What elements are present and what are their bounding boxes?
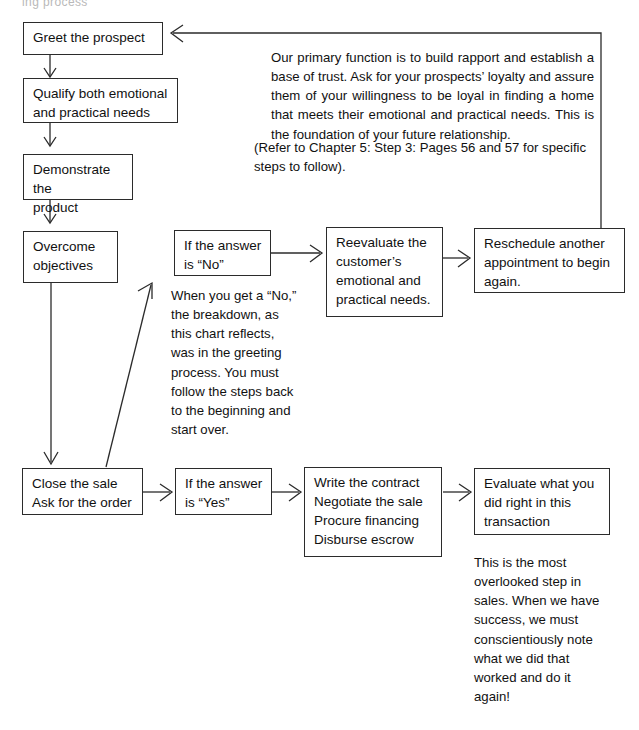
node-if-answer-no[interactable]: If the answer is “No” [174,230,271,276]
arrow-close-to-no-branch [106,283,152,467]
node-reevaluate-needs[interactable]: Reevaluate the customer’s emotional and … [326,227,443,317]
arrow-qualify-to-demonstrate [44,122,56,146]
arrow-greet-to-qualify [44,55,56,77]
node-close-the-sale[interactable]: Close the sale Ask for the order [22,468,143,515]
note-overlooked-step: This is the most overlooked step in sale… [474,553,624,706]
node-demonstrate-product[interactable]: Demonstrate the product [23,154,133,200]
top-text-fragment: ing process [22,0,88,9]
node-evaluate-transaction[interactable]: Evaluate what you did right in this tran… [474,468,610,535]
arrow-overcome-to-close [44,283,58,464]
node-write-the-contract[interactable]: Write the contract Negotiate the sale Pr… [304,467,442,557]
note-chapter-reference: (Refer to Chapter 5: Step 3: Pages 56 an… [254,138,590,176]
note-rapport-paragraph: Our primary function is to build rapport… [271,48,594,144]
note-breakdown-explanation: When you get a “No,” the breakdown, as t… [171,286,321,439]
flowchart-canvas: ing process [0,0,639,730]
node-qualify-needs[interactable]: Qualify both emotional and practical nee… [23,78,178,123]
node-if-answer-yes[interactable]: If the answer is “Yes” [175,468,272,515]
arrow-reevaluate-to-reschedule [443,250,470,267]
arrow-close-to-yes [143,484,172,501]
node-reschedule-appointment[interactable]: Reschedule another appointment to begin … [474,228,625,293]
node-overcome-objectives[interactable]: Overcome objectives [23,231,118,283]
arrow-yes-to-contract [272,484,301,501]
arrow-no-to-reevaluate [271,245,322,262]
arrow-contract-to-evaluate [443,484,471,501]
node-greet-the-prospect[interactable]: Greet the prospect [23,22,163,55]
